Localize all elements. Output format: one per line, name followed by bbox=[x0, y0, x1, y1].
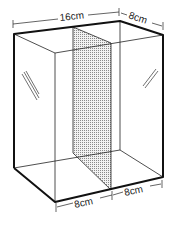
tank-diagram: 16cm 8cm 8cm 8cm bbox=[0, 0, 171, 233]
top-width-label: 16cm bbox=[59, 9, 84, 22]
partition-panel bbox=[73, 27, 111, 190]
top-depth-label: 8cm bbox=[127, 9, 148, 25]
